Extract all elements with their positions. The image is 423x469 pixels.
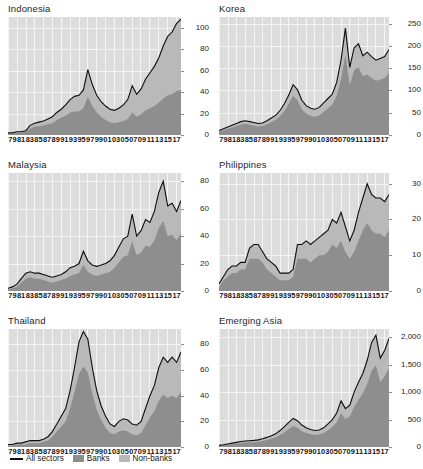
panel-title: Thailand: [8, 315, 46, 326]
x-tick-label: 13: [363, 136, 371, 143]
y-tick-label: 1,500: [401, 361, 421, 369]
y-tick-mark: [389, 291, 392, 292]
x-tick-label: 09: [138, 136, 146, 143]
panel-malaysia: Malaysia 020406080 798183858789919395979…: [0, 156, 211, 312]
x-tick-label: 01: [103, 292, 111, 299]
x-tick-label: 89: [52, 136, 60, 143]
x-tick-label: 95: [287, 136, 295, 143]
x-tick-label: 03: [321, 448, 329, 455]
y-tick-label: 0: [205, 443, 209, 451]
x-tick-label: 05: [330, 136, 338, 143]
x-tick-label: 09: [347, 136, 355, 143]
y-axis: 050100150200250: [389, 17, 423, 135]
y-tick-mark: [181, 135, 184, 136]
x-tick-label: 05: [330, 448, 338, 455]
legend-item-banks: Banks: [73, 455, 110, 463]
series-svg: [219, 329, 389, 447]
x-tick-label: 99: [304, 136, 312, 143]
y-tick-mark: [181, 114, 184, 115]
y-axis: 020406080: [181, 329, 211, 447]
x-tick-label: 97: [86, 136, 94, 143]
x-tick-label: 99: [304, 448, 312, 455]
x-tick-label: 09: [347, 292, 355, 299]
x-tick-label: 17: [172, 136, 180, 143]
x-tick-label: 85: [245, 136, 253, 143]
y-tick-label: 20: [200, 417, 209, 425]
y-tick-label: 0: [417, 287, 421, 295]
panel-philippines: Philippines 0102030 79818385878991939597…: [211, 156, 423, 312]
line-marker-icon: [10, 458, 23, 460]
y-tick-mark: [389, 337, 392, 338]
y-tick-mark: [389, 46, 392, 47]
legend-label: Banks: [87, 455, 110, 463]
x-tick-label: 93: [69, 136, 77, 143]
y-tick-mark: [389, 135, 392, 136]
panel-title: Korea: [219, 3, 245, 14]
x-tick-label: 79: [219, 136, 227, 143]
y-tick-label: 10: [412, 251, 421, 259]
x-tick-label: 79: [219, 292, 227, 299]
panel-title: Philippines: [219, 159, 267, 170]
chart-legend: All sectors Banks Non-banks: [10, 455, 172, 463]
x-tick-label: 79: [8, 136, 16, 143]
x-tick-label: 79: [219, 448, 227, 455]
chart-grid: Indonesia 020406080100 79818385878991939…: [0, 0, 423, 469]
x-tick-label: 87: [253, 136, 261, 143]
panel-indonesia: Indonesia 020406080100 79818385878991939…: [0, 0, 211, 156]
x-tick-label: 13: [155, 136, 163, 143]
series-svg: [219, 17, 389, 135]
x-tick-label: 95: [287, 292, 295, 299]
x-tick-label: 01: [313, 136, 321, 143]
y-tick-label: 60: [200, 67, 209, 75]
x-tick-label: 05: [330, 292, 338, 299]
x-tick-label: 17: [380, 292, 388, 299]
x-tick-label: 91: [60, 136, 68, 143]
x-tick-label: 99: [95, 136, 103, 143]
swatch-icon: [73, 455, 84, 462]
plot-area-indonesia: [8, 17, 181, 135]
plot-area-korea: [219, 17, 389, 135]
x-tick-label: 11: [147, 292, 155, 299]
y-tick-label: 0: [205, 131, 209, 139]
y-tick-mark: [181, 92, 184, 93]
y-tick-label: 50: [412, 109, 421, 117]
legend-label: All sectors: [26, 455, 64, 463]
panel-title: Emerging Asia: [219, 315, 282, 326]
y-tick-label: 500: [408, 416, 421, 424]
x-tick-label: 17: [172, 448, 180, 455]
x-tick-label: 07: [129, 292, 137, 299]
x-tick-label: 91: [270, 136, 278, 143]
y-tick-mark: [181, 28, 184, 29]
x-tick-label: 91: [270, 448, 278, 455]
x-tick-label: 09: [138, 292, 146, 299]
y-tick-mark: [181, 236, 184, 237]
x-tick-label: 97: [296, 292, 304, 299]
plot-area-emerging-asia: [219, 329, 389, 447]
x-tick-label: 13: [363, 292, 371, 299]
x-tick-label: 91: [60, 292, 68, 299]
x-tick-label: 83: [236, 136, 244, 143]
x-tick-label: 85: [34, 292, 42, 299]
x-tick-label: 11: [355, 136, 363, 143]
y-tick-mark: [389, 24, 392, 25]
x-tick-label: 83: [26, 292, 34, 299]
x-tick-label: 93: [69, 292, 77, 299]
x-tick-label: 85: [245, 292, 253, 299]
y-tick-mark: [389, 365, 392, 366]
x-axis: 7981838587899193959799010305070911131517: [219, 292, 389, 304]
y-tick-label: 60: [200, 205, 209, 213]
y-tick-label: 60: [200, 366, 209, 374]
x-tick-label: 03: [112, 292, 120, 299]
legend-label: Non-banks: [133, 455, 173, 463]
x-tick-label: 11: [355, 292, 363, 299]
x-tick-label: 01: [313, 448, 321, 455]
y-tick-mark: [389, 420, 392, 421]
y-tick-label: 100: [196, 24, 209, 32]
legend-item-non-banks: Non-banks: [119, 455, 173, 463]
y-tick-label: 80: [200, 45, 209, 53]
x-tick-label: 91: [270, 292, 278, 299]
x-tick-label: 15: [372, 136, 380, 143]
y-axis: 020406080: [181, 173, 211, 291]
y-tick-mark: [181, 447, 184, 448]
y-tick-mark: [181, 370, 184, 371]
